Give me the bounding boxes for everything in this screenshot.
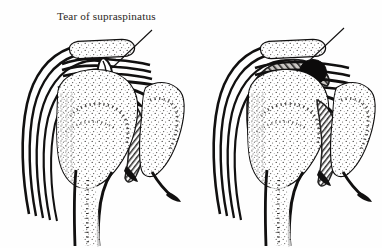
label-tear-of-supraspinatus: Tear of supraspinatus — [57, 10, 156, 22]
acromion — [261, 40, 327, 60]
humeral-shaft — [265, 170, 303, 248]
medical-illustration-figure: Tear of supraspinatus — [0, 0, 382, 248]
shoulder-section-left — [0, 0, 191, 248]
scapula — [138, 78, 190, 202]
acromion — [70, 40, 136, 60]
humeral-shaft — [74, 170, 112, 248]
panel-tear-of-supraspinatus: Tear of supraspinatus — [0, 0, 191, 248]
shoulder-section-right — [191, 0, 382, 248]
scapula — [329, 78, 381, 202]
panel-area-of-calcification: Area of calcification — [191, 0, 382, 248]
